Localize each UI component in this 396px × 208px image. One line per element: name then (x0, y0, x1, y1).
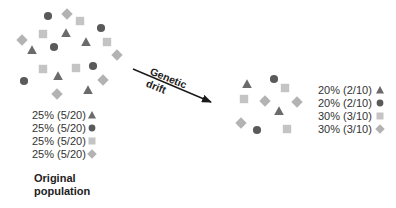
square-icon (240, 95, 248, 103)
diamond-icon (97, 74, 108, 85)
circle-icon (20, 77, 28, 85)
diamond-icon (61, 8, 72, 19)
drifted-legend-circle-label: 20% (2/10) (318, 97, 372, 109)
triangle-icon (274, 106, 284, 115)
diamond-icon (87, 149, 97, 159)
original-legend-circle-label: 25% (5/20) (32, 122, 86, 134)
square-icon (377, 113, 384, 120)
diamond-icon (51, 88, 62, 99)
original-legend-triangle-label: 25% (5/20) (32, 109, 86, 121)
original-legend-square-label: 25% (5/20) (32, 135, 86, 147)
diamond-icon (16, 34, 27, 45)
square-icon (39, 65, 47, 73)
circle-icon (97, 24, 105, 32)
diamond-icon (111, 49, 122, 60)
triangle-icon (81, 37, 91, 46)
drifted-legend-diamond-label: 30% (3/10) (318, 123, 372, 135)
square-icon (89, 138, 96, 145)
caption-line-1: Original (34, 172, 90, 185)
original-population-group (16, 8, 122, 99)
triangle-icon (242, 79, 252, 88)
original-legend-icons (87, 111, 97, 159)
square-icon (283, 125, 291, 133)
triangle-icon (61, 28, 71, 37)
original-legend-diamond-label: 25% (5/20) (32, 148, 86, 160)
triangle-icon (376, 86, 384, 93)
triangle-icon (83, 85, 93, 94)
diamond-icon (375, 124, 385, 134)
circle-icon (270, 75, 278, 83)
circle-icon (253, 126, 261, 134)
circle-icon (50, 43, 58, 51)
drifted-legend-triangle-label: 20% (2/10) (318, 84, 372, 96)
drifted-population-group (235, 75, 302, 134)
circle-icon (89, 125, 96, 132)
original-population-caption: Original population (34, 172, 90, 198)
circle-icon (89, 62, 97, 70)
triangle-icon (88, 111, 96, 118)
square-icon (103, 38, 111, 46)
square-icon (76, 17, 84, 25)
triangle-icon (53, 71, 63, 80)
square-icon (39, 30, 47, 38)
diamond-icon (291, 96, 302, 107)
diamond-icon (259, 95, 270, 106)
triangle-icon (27, 45, 37, 54)
caption-line-2: population (34, 185, 90, 198)
diamond-icon (235, 117, 246, 128)
square-icon (72, 64, 80, 72)
circle-icon (377, 100, 384, 107)
square-icon (281, 84, 289, 92)
drifted-legend-icons (375, 86, 385, 134)
drifted-legend-square-label: 30% (3/10) (318, 110, 372, 122)
circle-icon (44, 12, 52, 20)
